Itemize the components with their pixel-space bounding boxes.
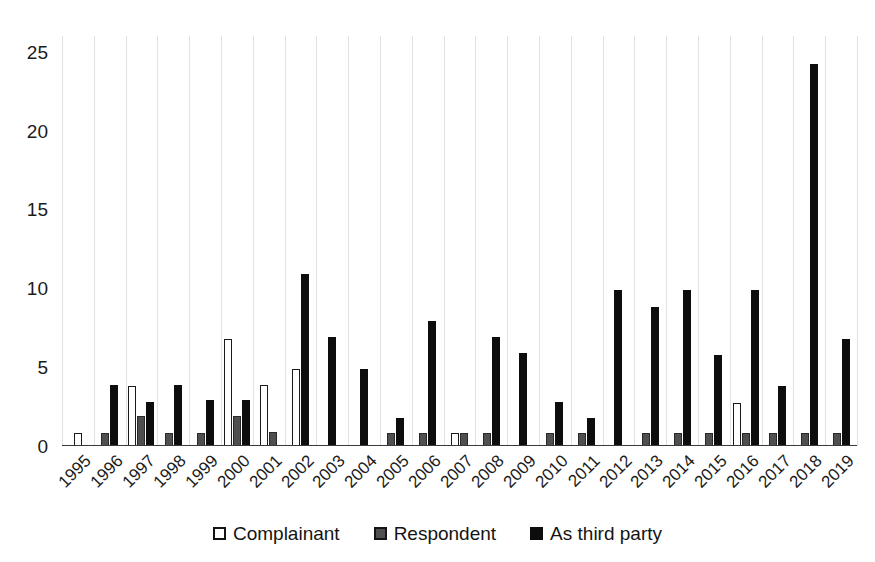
chart-legend: ComplainantRespondentAs third party (0, 524, 875, 543)
bar-group-2018 (793, 36, 825, 446)
bar-2008-third (492, 337, 500, 446)
bar-2019-third (842, 339, 850, 446)
bar-2009-third (519, 353, 527, 446)
bar-group-2006 (412, 36, 444, 446)
legend-label: Complainant (233, 524, 340, 543)
bar-2003-third (328, 337, 336, 446)
bar-group-2002 (285, 36, 317, 446)
bar-group-2015 (698, 36, 730, 446)
bar-chart: 0510152025 19951996199719981999200020012… (0, 0, 875, 562)
bar-1996-third (110, 385, 118, 447)
bar-1998-third (174, 385, 182, 447)
y-axis-tick-10: 10 (27, 279, 48, 298)
bar-2002-third (301, 274, 309, 446)
bar-2016-third (751, 290, 759, 446)
legend-label: As third party (550, 524, 662, 543)
bar-group-1998 (157, 36, 189, 446)
vertical-gridline (857, 36, 858, 446)
bar-group-2003 (316, 36, 348, 446)
bar-group-2012 (603, 36, 635, 446)
bar-2000-third (242, 400, 250, 446)
bar-2016-complainant (733, 403, 741, 446)
black-square-icon (530, 527, 543, 540)
bar-2004-third (360, 369, 368, 446)
bar-group-2005 (380, 36, 412, 446)
bar-group-2010 (539, 36, 571, 446)
bar-2013-third (651, 307, 659, 446)
bar-group-2013 (634, 36, 666, 446)
bar-2005-third (396, 418, 404, 446)
open-square-icon (213, 527, 226, 540)
y-axis-tick-15: 15 (27, 200, 48, 219)
y-axis-tick-25: 25 (27, 42, 48, 61)
bar-2018-third (810, 64, 818, 446)
bar-group-2004 (348, 36, 380, 446)
bar-2000-respondent (233, 416, 241, 446)
y-axis: 0510152025 (0, 36, 56, 446)
bar-1997-complainant (128, 386, 136, 446)
bar-group-1999 (189, 36, 221, 446)
bar-2000-complainant (224, 339, 232, 446)
bars-layer (62, 36, 857, 446)
y-axis-tick-20: 20 (27, 121, 48, 140)
bar-2006-third (428, 321, 436, 446)
x-axis-line (62, 445, 857, 446)
bar-2001-respondent (269, 432, 277, 446)
bar-group-2016 (730, 36, 762, 446)
bar-group-1997 (126, 36, 158, 446)
bar-2001-complainant (260, 385, 268, 447)
legend-item-respondent[interactable]: Respondent (374, 524, 496, 543)
bar-group-2011 (571, 36, 603, 446)
bar-2017-third (778, 386, 786, 446)
legend-label: Respondent (394, 524, 496, 543)
legend-item-complainant[interactable]: Complainant (213, 524, 340, 543)
bar-group-2001 (253, 36, 285, 446)
bar-group-1995 (62, 36, 94, 446)
bar-group-2014 (666, 36, 698, 446)
bar-2015-third (714, 355, 722, 446)
bar-1999-third (206, 400, 214, 446)
bar-group-2019 (825, 36, 857, 446)
bar-2012-third (614, 290, 622, 446)
plot-area (62, 36, 857, 446)
bar-group-2017 (762, 36, 794, 446)
bar-2002-complainant (292, 369, 300, 446)
bar-group-2008 (475, 36, 507, 446)
bar-2014-third (683, 290, 691, 446)
bar-group-2007 (444, 36, 476, 446)
y-axis-tick-5: 5 (37, 358, 48, 377)
bar-2010-third (555, 402, 563, 446)
y-axis-tick-0: 0 (37, 437, 48, 456)
bar-group-2000 (221, 36, 253, 446)
bar-group-2009 (507, 36, 539, 446)
bar-1997-respondent (137, 416, 145, 446)
bar-group-1996 (94, 36, 126, 446)
legend-item-as-third-party[interactable]: As third party (530, 524, 662, 543)
bar-1997-third (146, 402, 154, 446)
bar-2011-third (587, 418, 595, 446)
x-axis: 1995199619971998199920002001200220032004… (62, 450, 857, 516)
gray-square-icon (374, 527, 387, 540)
